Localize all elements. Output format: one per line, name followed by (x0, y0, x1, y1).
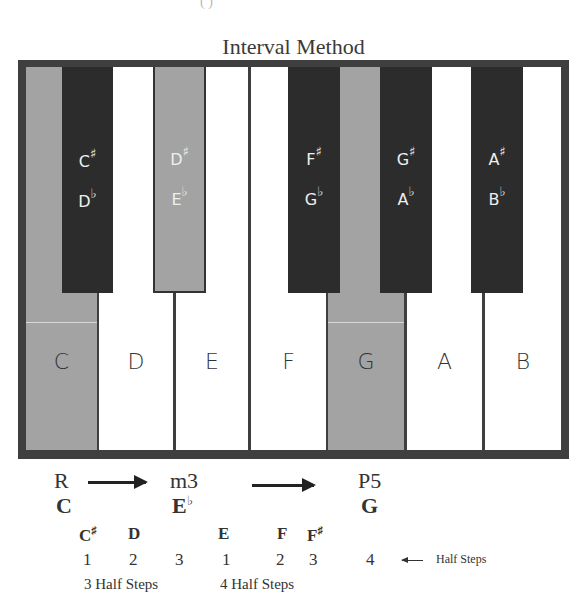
step-count: 1 (83, 550, 92, 570)
step-count: 3 (175, 550, 184, 570)
step-count: 1 (222, 550, 231, 570)
black-key-f-sharp: F♯ G♭ (288, 67, 340, 293)
third-interval-label: m3 (170, 468, 198, 494)
right-arrow-icon (88, 481, 146, 484)
step-note: C♯ (79, 524, 97, 546)
root-note: C (56, 493, 72, 519)
white-key-label: B (485, 349, 561, 374)
step-count: 2 (129, 550, 138, 570)
flat-label: E♭ (155, 187, 204, 209)
white-key-label: E (176, 349, 248, 374)
fifth-note: G (361, 493, 378, 519)
fifth-interval-label: P5 (358, 468, 381, 494)
white-key-label: D (99, 349, 173, 374)
right-arrow-icon (252, 484, 314, 487)
cropped-heading-fragment: ( ) (200, 0, 390, 8)
black-key-c-sharp: C♯ D♭ (62, 67, 113, 293)
black-key-d-sharp: D♯ E♭ (153, 67, 206, 293)
sharp-label: C♯ (62, 149, 113, 171)
step-note: E (218, 524, 229, 544)
sharp-label: F♯ (288, 147, 340, 169)
root-interval-label: R (54, 468, 69, 494)
step-count: 2 (276, 550, 285, 570)
group-label-4-half-steps: 4 Half Steps (220, 576, 294, 593)
white-key-label: A (407, 349, 482, 374)
white-key-label: F (251, 349, 326, 374)
step-count: 4 (366, 550, 375, 570)
step-note: F♯ (307, 524, 323, 546)
flat-label: A♭ (380, 187, 432, 209)
white-key-label: C (26, 349, 97, 374)
step-note: D (128, 524, 140, 544)
diagram-title: Interval Method (0, 34, 587, 60)
white-key-label: G (328, 349, 404, 374)
step-count: 3 (309, 550, 318, 570)
half-steps-legend: Half Steps (436, 552, 486, 567)
key-highlight-divider (26, 322, 97, 323)
sharp-label: D♯ (155, 147, 204, 169)
third-note: E♭ (172, 493, 193, 519)
flat-label: B♭ (471, 187, 523, 209)
sharp-label: G♯ (380, 147, 432, 169)
black-key-g-sharp: G♯ A♭ (380, 67, 432, 293)
flat-label: D♭ (62, 189, 113, 211)
flat-label: G♭ (288, 187, 340, 209)
sharp-label: A♯ (471, 147, 523, 169)
key-highlight-divider (328, 322, 404, 323)
black-key-a-sharp: A♯ B♭ (471, 67, 523, 293)
step-note: F (277, 524, 287, 544)
left-arrow-icon (402, 560, 423, 561)
group-label-3-half-steps: 3 Half Steps (84, 576, 158, 593)
